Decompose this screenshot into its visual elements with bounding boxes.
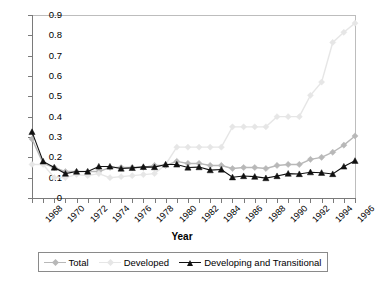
data-point: [330, 171, 336, 177]
x-tick-label: 1990: [289, 204, 310, 225]
x-tick: [177, 199, 178, 203]
data-point: [118, 165, 124, 171]
data-point: [140, 164, 146, 170]
y-tick: [28, 117, 32, 118]
y-tick-label: 0: [34, 193, 62, 203]
data-point: [263, 124, 269, 130]
data-point: [330, 149, 336, 155]
data-point: [263, 175, 269, 181]
y-tick: [28, 56, 32, 57]
data-point: [218, 166, 224, 172]
data-point: [85, 168, 91, 174]
x-tick-label: 1980: [178, 204, 199, 225]
data-point: [241, 124, 247, 130]
y-tick-label: 0.9: [34, 10, 62, 20]
data-point: [118, 164, 124, 170]
data-point: [341, 29, 347, 35]
triangle-marker-icon: [179, 258, 201, 267]
data-point: [241, 164, 247, 170]
data-point: [196, 164, 202, 170]
series-total: [29, 133, 358, 175]
data-point: [73, 168, 79, 174]
x-tick-label: 1982: [200, 204, 221, 225]
legend-item-total[interactable]: Total: [44, 257, 90, 268]
data-point: [196, 144, 202, 150]
x-tick: [255, 199, 256, 203]
y-tick-label: 0.8: [34, 30, 62, 40]
x-tick: [155, 199, 156, 203]
data-point: [285, 114, 291, 120]
data-point: [62, 175, 68, 181]
data-point: [118, 174, 124, 180]
x-tick-label: 1992: [311, 204, 332, 225]
data-point: [129, 165, 135, 171]
x-tick: [288, 199, 289, 203]
series-line: [32, 132, 355, 178]
data-point: [263, 165, 269, 171]
data-point: [341, 142, 347, 148]
data-point: [341, 163, 347, 169]
data-point: [207, 167, 213, 173]
x-tick-label: 1994: [333, 204, 354, 225]
data-point: [285, 161, 291, 167]
x-tick: [355, 199, 356, 203]
data-point: [163, 161, 169, 167]
x-tick: [43, 199, 44, 203]
data-point: [229, 174, 235, 180]
data-point: [62, 171, 68, 177]
legend-item-developing-and-transitional[interactable]: Developing and Transitional: [179, 257, 322, 268]
y-tick-label: 0.1: [34, 173, 62, 183]
data-point: [274, 114, 280, 120]
x-tick: [110, 199, 111, 203]
data-point: [229, 124, 235, 130]
x-tick: [77, 199, 78, 203]
x-tick: [166, 199, 167, 203]
x-tick: [54, 199, 55, 203]
x-tick: [65, 199, 66, 203]
y-tick-label: 0.6: [34, 71, 62, 81]
data-point: [163, 162, 169, 168]
legend-item-developed[interactable]: Developed: [99, 257, 170, 268]
data-point: [174, 161, 180, 167]
y-tick: [28, 76, 32, 77]
data-point: [129, 173, 135, 179]
x-tick: [310, 199, 311, 203]
data-point: [207, 162, 213, 168]
y-tick-label: 0.7: [34, 51, 62, 61]
x-tick-label: 1986: [244, 204, 265, 225]
y-tick-label: 0.4: [34, 112, 62, 122]
x-axis-line: [32, 198, 356, 199]
x-tick: [221, 199, 222, 203]
x-tick: [344, 199, 345, 203]
data-point: [318, 170, 324, 176]
legend-label: Developed: [123, 257, 170, 268]
x-tick: [32, 199, 33, 203]
diamond-marker-icon: [99, 258, 121, 267]
data-point: [296, 114, 302, 120]
data-point: [318, 154, 324, 160]
data-point: [151, 171, 157, 177]
plot-border-right: [355, 15, 356, 199]
legend-label: Total: [68, 257, 90, 268]
x-tick-label: 1988: [267, 204, 288, 225]
x-tick: [121, 199, 122, 203]
data-point: [151, 164, 157, 170]
data-point: [185, 144, 191, 150]
data-point: [218, 144, 224, 150]
series-line: [32, 23, 355, 178]
data-point: [218, 162, 224, 168]
x-tick: [244, 199, 245, 203]
x-tick: [277, 199, 278, 203]
data-point: [207, 144, 213, 150]
data-point: [252, 124, 258, 130]
data-point: [307, 92, 313, 98]
data-point: [252, 174, 258, 180]
data-point: [140, 172, 146, 178]
data-point: [318, 79, 324, 85]
data-point: [73, 172, 79, 178]
data-point: [51, 164, 57, 170]
data-point: [285, 171, 291, 177]
data-point: [185, 160, 191, 166]
diamond-marker-icon: [44, 258, 66, 267]
series-developed: [29, 20, 358, 181]
